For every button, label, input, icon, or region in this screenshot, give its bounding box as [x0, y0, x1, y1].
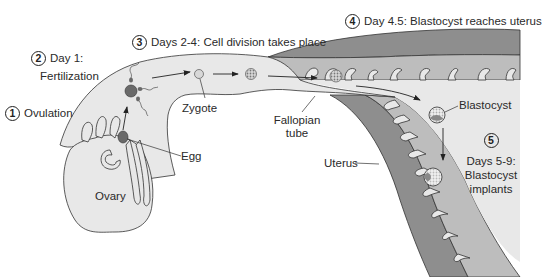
zygote-label: Zygote: [182, 102, 217, 115]
implanting-blastocyst: [424, 168, 442, 186]
egg: [118, 131, 128, 143]
uterus-pointer: [355, 163, 379, 164]
step-number-badge: 2: [31, 51, 46, 66]
step-5-line2: Blastocyst: [456, 169, 526, 182]
egg-label: Egg: [181, 150, 201, 163]
step-2-fertilization: 2Day 1:: [31, 51, 83, 66]
step-4-blastocyst-reaches: 4Day 4.5: Blastocyst reaches uterus: [345, 14, 542, 29]
step-number-badge: 5: [484, 133, 499, 148]
step-1-ovulation: 1Ovulation: [5, 106, 73, 121]
blastocyst-label: Blastocyst: [459, 99, 511, 112]
zygote: [195, 70, 204, 79]
step-5-line1: Days 5-9:: [456, 155, 526, 168]
step-3-cell-division: 3Days 2-4: Cell division takes place: [132, 35, 326, 50]
blastocyst: [429, 107, 445, 123]
step-5-number: 5: [476, 133, 506, 148]
step-number-badge: 3: [132, 35, 147, 50]
step-number-badge: 4: [345, 14, 360, 29]
ovary-label: Ovary: [95, 190, 126, 203]
fallopian-pointer: [302, 96, 315, 112]
fallopian-tube-label-2: tube: [272, 127, 322, 140]
step-5-line3: implants: [456, 183, 526, 196]
morula: [330, 70, 342, 82]
fallopian-tube-label-1: Fallopian: [272, 114, 322, 127]
cleavage-cell: [246, 69, 257, 80]
uterus-label: Uterus: [324, 157, 358, 170]
step-2-fertilization-line2: Fertilization: [40, 70, 99, 83]
step-number-badge: 1: [5, 106, 20, 121]
